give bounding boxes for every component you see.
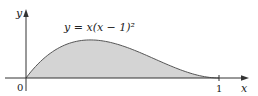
x-axis-label: x: [241, 82, 248, 95]
origin-label: 0: [17, 82, 23, 93]
x-tick-label-one: 1: [216, 83, 222, 94]
y-axis-label: y: [15, 7, 23, 20]
function-label: y = x(x − 1)²: [63, 21, 135, 34]
y-axis-arrow-icon: [23, 9, 28, 17]
x-axis-arrow-icon: [241, 75, 249, 80]
area-under-curve-figure: y x 0 1 y = x(x − 1)²: [0, 0, 258, 96]
